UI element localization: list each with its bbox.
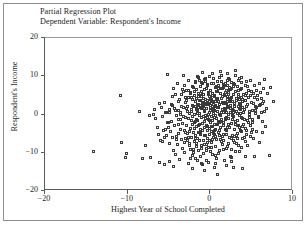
scatter-point — [202, 93, 205, 96]
scatter-point — [195, 118, 198, 121]
scatter-point — [198, 139, 201, 142]
scatter-point — [174, 93, 177, 96]
scatter-point — [181, 147, 184, 150]
scatter-point — [222, 86, 225, 89]
scatter-point — [213, 129, 216, 132]
scatter-point — [244, 140, 247, 143]
scatter-point — [231, 118, 234, 121]
scatter-point — [240, 146, 243, 149]
scatter-point — [212, 82, 215, 85]
scatter-point — [200, 162, 203, 165]
scatter-point — [255, 130, 258, 133]
scatter-point — [138, 110, 141, 113]
scatter-point — [184, 131, 187, 134]
scatter-point — [223, 107, 226, 110]
scatter-point — [227, 117, 230, 120]
x-tick-mark — [292, 190, 293, 194]
scatter-point — [218, 103, 221, 106]
scatter-point — [182, 74, 185, 77]
scatter-point — [208, 75, 211, 78]
scatter-point — [236, 124, 239, 127]
scatter-point — [222, 148, 225, 151]
scatter-point — [223, 159, 226, 162]
scatter-point — [227, 77, 230, 80]
scatter-point — [256, 94, 259, 97]
scatter-point — [178, 98, 181, 101]
x-tick-label: −10 — [112, 195, 142, 203]
scatter-point — [240, 76, 243, 79]
scatter-point — [175, 114, 178, 117]
scatter-point — [189, 157, 192, 160]
scatter-points-layer — [45, 38, 291, 189]
scatter-point — [226, 84, 229, 87]
scatter-point — [199, 132, 202, 135]
scatter-point — [119, 94, 122, 97]
scatter-point — [157, 133, 160, 136]
scatter-point — [209, 89, 212, 92]
scatter-point — [198, 79, 201, 82]
scatter-point — [215, 123, 218, 126]
scatter-point — [203, 110, 206, 113]
scatter-point — [258, 82, 261, 85]
scatter-point — [233, 128, 236, 131]
scatter-point — [230, 156, 233, 159]
scatter-point — [201, 106, 204, 109]
scatter-point — [221, 95, 224, 98]
scatter-point — [171, 136, 174, 139]
scatter-point — [211, 100, 214, 103]
scatter-point — [193, 127, 196, 130]
scatter-point — [232, 82, 235, 85]
scatter-point — [238, 114, 241, 117]
scatter-point — [233, 105, 236, 108]
scatter-point — [250, 131, 253, 134]
y-tick-label: 10 — [16, 71, 38, 79]
scatter-point — [218, 76, 221, 79]
scatter-point — [197, 95, 200, 98]
scatter-point — [183, 84, 186, 87]
scatter-point — [219, 70, 222, 73]
scatter-point — [204, 117, 207, 120]
scatter-point — [166, 121, 169, 124]
scatter-point — [218, 129, 221, 132]
scatter-point — [241, 106, 244, 109]
scatter-point — [183, 151, 186, 154]
scatter-point — [244, 99, 247, 102]
scatter-point — [170, 120, 173, 123]
scatter-point — [237, 89, 240, 92]
scatter-point — [207, 161, 210, 164]
scatter-point — [259, 91, 262, 94]
y-tick-label: 20 — [16, 33, 38, 41]
scatter-point — [172, 87, 175, 90]
scatter-point — [92, 150, 95, 153]
scatter-point — [202, 152, 205, 155]
scatter-point — [175, 138, 178, 141]
x-axis-label: Highest Year of School Completed — [44, 205, 292, 214]
scatter-point — [179, 128, 182, 131]
scatter-point — [125, 152, 128, 155]
scatter-point — [214, 135, 217, 138]
scatter-point — [168, 142, 171, 145]
scatter-point — [244, 94, 247, 97]
scatter-point — [241, 167, 244, 170]
scatter-point — [225, 133, 228, 136]
scatter-point — [203, 134, 206, 137]
scatter-point — [212, 108, 215, 111]
scatter-point — [235, 99, 238, 102]
scatter-point — [249, 79, 252, 82]
scatter-point — [230, 137, 233, 140]
scatter-point — [160, 106, 163, 109]
scatter-point — [164, 128, 167, 131]
scatter-point — [244, 155, 247, 158]
scatter-point — [247, 89, 250, 92]
scatter-point — [216, 80, 219, 83]
scatter-point — [206, 125, 209, 128]
scatter-point — [254, 112, 257, 115]
scatter-point — [176, 143, 179, 146]
scatter-point — [261, 102, 264, 105]
scatter-point — [197, 103, 200, 106]
scatter-point — [213, 166, 216, 169]
scatter-point — [210, 146, 213, 149]
scatter-point — [203, 169, 206, 172]
scatter-point — [251, 109, 254, 112]
x-tick-mark — [44, 190, 45, 194]
